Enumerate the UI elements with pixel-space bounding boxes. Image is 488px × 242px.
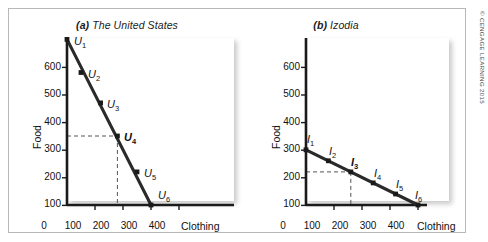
panel-a-point-u6 xyxy=(149,203,154,208)
panel-a-point-u1 xyxy=(65,37,70,42)
panel-a-label-u3: U3 xyxy=(107,98,119,113)
panel-a-label-u5: U5 xyxy=(144,167,156,182)
panel-a-label-u6: U6 xyxy=(158,189,170,204)
figure-frame: (a) The United States Food 600 500 400 3… xyxy=(8,8,466,233)
panel-b-label-i5: I5 xyxy=(396,178,403,193)
panel-a-point-u3 xyxy=(98,101,103,106)
panel-b-label-i2: I2 xyxy=(329,145,336,160)
panel-b-label-i1: I1 xyxy=(307,133,314,148)
panel-a-ppf-line xyxy=(67,39,151,205)
panel-a-label-u4: U4 xyxy=(124,131,136,146)
panel-b-graph xyxy=(245,9,427,234)
panel-united-states: (a) The United States Food 600 500 400 3… xyxy=(9,9,245,234)
panel-a-graph xyxy=(9,9,245,234)
panel-a-label-u1: U1 xyxy=(74,35,86,50)
panel-b-label-i4: I4 xyxy=(374,167,381,182)
panel-izodia: (b) Izodia Food 600 500 400 300 200 100 … xyxy=(245,9,427,234)
panel-a-label-u2: U2 xyxy=(88,68,100,83)
panel-a-point-u5 xyxy=(135,170,140,175)
copyright-notice: © CENGAGE LEARNING 2015 xyxy=(479,11,486,104)
panel-a-point-u4 xyxy=(115,134,120,139)
panel-a-point-u2 xyxy=(79,70,84,75)
panel-b-label-i6: I6 xyxy=(415,189,422,204)
panel-b-label-i3: I3 xyxy=(351,156,358,171)
